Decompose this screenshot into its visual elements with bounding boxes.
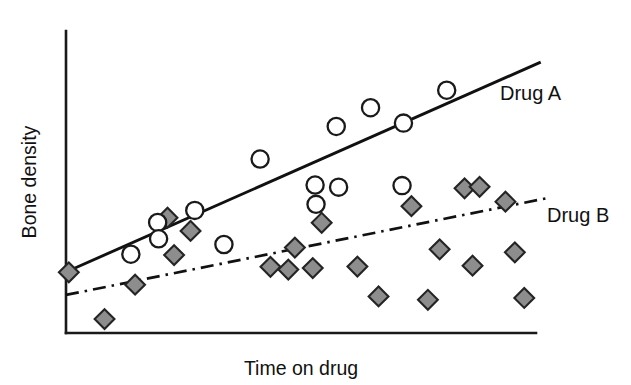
- data-point-drug-a: [215, 236, 232, 253]
- data-point-drug-b: [181, 221, 201, 241]
- data-point-drug-b: [505, 242, 525, 262]
- data-point-drug-b: [95, 309, 115, 329]
- data-point-drug-b: [369, 287, 389, 307]
- data-point-drug-b: [303, 258, 323, 278]
- data-point-drug-b: [164, 245, 184, 265]
- data-point-drug-b: [430, 239, 450, 259]
- y-axis-title: Bone density: [18, 125, 40, 238]
- data-point-drug-a: [395, 115, 412, 132]
- data-point-drug-a: [328, 118, 345, 135]
- data-point-drug-b: [125, 275, 145, 295]
- data-point-drug-b: [285, 238, 305, 258]
- data-point-drug-b: [261, 257, 281, 277]
- data-point-drug-b: [470, 177, 490, 197]
- data-point-drug-b: [514, 288, 534, 308]
- data-point-drug-b: [463, 256, 483, 276]
- data-point-drug-a: [252, 150, 269, 167]
- data-point-drug-b: [59, 262, 79, 282]
- data-point-drug-a: [438, 82, 455, 99]
- data-point-drug-b: [418, 290, 438, 310]
- chart-canvas: Drug A Drug B Time on drug Bone density: [0, 0, 631, 385]
- series-label-drug-a: Drug A: [500, 82, 562, 104]
- x-axis-title: Time on drug: [244, 357, 358, 379]
- trendline-drug-a: [66, 62, 541, 272]
- data-point-drug-b: [348, 257, 368, 277]
- data-point-drug-b: [278, 260, 298, 280]
- data-point-drug-a: [362, 99, 379, 116]
- data-point-drug-a: [150, 230, 167, 247]
- data-point-drug-b: [402, 196, 422, 216]
- data-point-drug-a: [393, 177, 410, 194]
- data-point-drug-a: [122, 246, 139, 263]
- data-point-drug-b: [312, 213, 332, 233]
- data-point-drug-a: [330, 179, 347, 196]
- data-point-drug-a: [186, 202, 203, 219]
- series-label-drug-b: Drug B: [547, 204, 609, 226]
- data-point-drug-a: [307, 196, 324, 213]
- data-point-drug-a: [149, 214, 166, 231]
- data-point-drug-a: [307, 176, 324, 193]
- bone-density-scatter-figure: Drug A Drug B Time on drug Bone density: [0, 0, 631, 385]
